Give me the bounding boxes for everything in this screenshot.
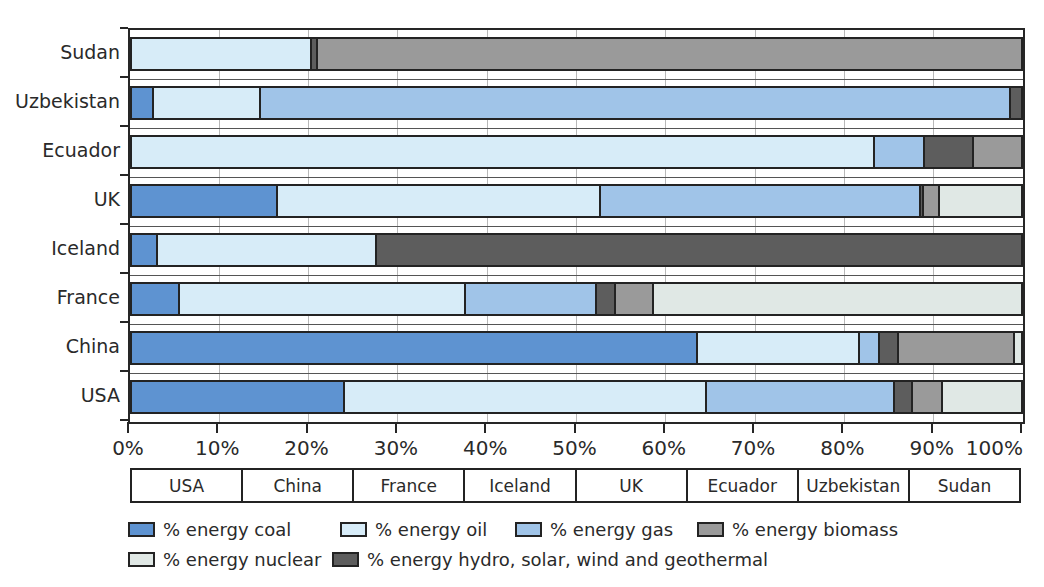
- bar-iceland-segment-coal: [132, 235, 156, 265]
- bar-sudan: [130, 37, 1023, 71]
- legend-label-oil: % energy oil: [375, 519, 487, 540]
- bar-ecuador-segment-biomass: [972, 137, 1021, 167]
- footer-cell-usa: USA: [132, 470, 241, 501]
- x-tick-90: [931, 422, 933, 433]
- legend-label-hydro: % energy hydro, solar, wind and geotherm…: [367, 549, 768, 570]
- bar-ecuador: [130, 135, 1023, 169]
- row-separator: [130, 275, 1023, 276]
- bar-usa-segment-biomass: [911, 382, 941, 412]
- y-label-usa: USA: [0, 383, 120, 407]
- bar-china-segment-oil: [696, 333, 859, 363]
- legend-swatch-coal: [128, 522, 155, 537]
- legend-label-coal: % energy coal: [163, 519, 291, 540]
- legend-label-biomass: % energy biomass: [732, 519, 898, 540]
- footer-cell-sudan: Sudan: [908, 470, 1019, 501]
- bar-uzbekistan-segment-oil: [152, 88, 260, 118]
- bar-usa-segment-coal: [132, 382, 343, 412]
- y-tick: [120, 125, 128, 127]
- footer-cell-iceland: Iceland: [463, 470, 574, 501]
- legend-item-gas: % energy gas: [515, 518, 673, 540]
- plot-area: [128, 28, 1025, 424]
- bar-uzbekistan-segment-hydro: [1009, 88, 1021, 118]
- footer-cell-uzbekistan: Uzbekistan: [797, 470, 908, 501]
- row-separator: [130, 373, 1023, 374]
- x-tick-50: [574, 422, 576, 433]
- y-label-uk: UK: [0, 187, 120, 211]
- energy-mix-stacked-bar-chart: SudanUzbekistanEcuadorUKIcelandFranceChi…: [0, 0, 1044, 587]
- legend-swatch-oil: [340, 522, 367, 537]
- bar-usa-segment-gas: [705, 382, 893, 412]
- legend-label-nuclear: % energy nuclear: [163, 549, 321, 570]
- x-tick-70: [752, 422, 754, 433]
- footer-cell-france: France: [352, 470, 463, 501]
- x-tick-label-0: 0%: [112, 436, 144, 460]
- bar-china-segment-gas: [858, 333, 878, 363]
- y-tick: [120, 321, 128, 323]
- x-tick-10: [216, 422, 218, 433]
- x-tick-label-20: 20%: [284, 436, 328, 460]
- bar-ecuador-segment-gas: [873, 137, 923, 167]
- y-tick: [120, 27, 128, 29]
- bar-iceland-segment-oil: [156, 235, 375, 265]
- x-tick-30: [395, 422, 397, 433]
- bar-france-segment-biomass: [614, 284, 652, 314]
- bar-france-segment-nuclear: [652, 284, 1021, 314]
- bar-ecuador-segment-oil: [132, 137, 873, 167]
- y-tick: [120, 272, 128, 274]
- y-tick: [120, 419, 128, 421]
- legend-swatch-gas: [515, 522, 542, 537]
- x-tick-label-70: 70%: [731, 436, 775, 460]
- x-tick-80: [841, 422, 843, 433]
- x-tick-label-10: 10%: [195, 436, 239, 460]
- bar-uzbekistan-segment-coal: [132, 88, 152, 118]
- row-separator: [130, 177, 1023, 178]
- footer-cell-uk: UK: [575, 470, 686, 501]
- row-separator: [130, 128, 1023, 129]
- legend-swatch-hydro: [332, 552, 359, 567]
- bar-uk: [130, 184, 1023, 218]
- legend-swatch-biomass: [697, 522, 724, 537]
- row-separator: [130, 79, 1023, 80]
- bar-uk-segment-nuclear: [938, 186, 1021, 216]
- bar-ecuador-segment-hydro: [923, 137, 972, 167]
- y-label-france: France: [0, 285, 120, 309]
- bar-iceland: [130, 233, 1023, 267]
- y-label-ecuador: Ecuador: [0, 138, 120, 162]
- footer-cell-ecuador: Ecuador: [686, 470, 797, 501]
- x-tick-label-90: 90%: [909, 436, 953, 460]
- y-tick: [120, 223, 128, 225]
- bar-uk-segment-gas: [599, 186, 919, 216]
- bar-uzbekistan-segment-gas: [259, 88, 1009, 118]
- bar-france-segment-gas: [464, 284, 595, 314]
- bar-usa: [130, 380, 1023, 414]
- bar-uk-segment-biomass: [922, 186, 938, 216]
- legend-swatch-nuclear: [128, 552, 155, 567]
- x-tick-0: [127, 422, 129, 433]
- x-tick-100: [1020, 422, 1022, 433]
- bar-china-segment-hydro: [878, 333, 898, 363]
- legend-item-biomass: % energy biomass: [697, 518, 898, 540]
- legend-item-hydro: % energy hydro, solar, wind and geotherm…: [332, 548, 768, 570]
- bar-sudan-segment-biomass: [316, 39, 1021, 69]
- y-tick: [120, 370, 128, 372]
- bar-france-segment-coal: [132, 284, 178, 314]
- x-tick-label-50: 50%: [552, 436, 596, 460]
- bar-china-segment-biomass: [897, 333, 1013, 363]
- y-tick: [120, 174, 128, 176]
- y-label-uzbekistan: Uzbekistan: [0, 89, 120, 113]
- bar-iceland-segment-hydro: [375, 235, 1021, 265]
- bar-france: [130, 282, 1023, 316]
- bar-usa-segment-oil: [343, 382, 706, 412]
- legend-item-oil: % energy oil: [340, 518, 487, 540]
- x-tick-40: [484, 422, 486, 433]
- bar-uk-segment-oil: [276, 186, 599, 216]
- row-separator: [130, 226, 1023, 227]
- bar-uk-segment-coal: [132, 186, 276, 216]
- x-tick-label-80: 80%: [820, 436, 864, 460]
- bar-usa-segment-nuclear: [941, 382, 1021, 412]
- x-tick-label-30: 30%: [374, 436, 418, 460]
- country-strip-table: USAChinaFranceIcelandUKEcuadorUzbekistan…: [130, 468, 1021, 503]
- x-tick-label-60: 60%: [642, 436, 686, 460]
- y-tick: [120, 76, 128, 78]
- row-separator: [130, 324, 1023, 325]
